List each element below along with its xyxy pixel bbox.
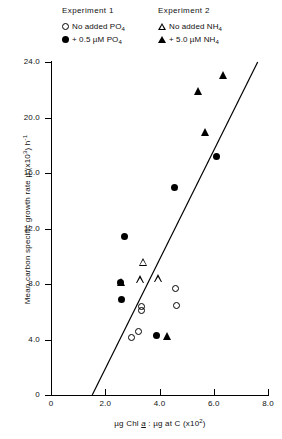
y-tick [45,340,51,341]
y-tick [45,62,51,63]
regression-line [0,0,282,439]
data-point-filled-circle [121,233,128,240]
x-tick-label: 6.0 [199,399,229,408]
data-point-open-circle [138,307,145,314]
x-axis-title: µg Chl a : µg at C (x102) [51,419,269,428]
data-point-open-circle [172,285,179,292]
y-tick [45,229,51,230]
x-tick [214,389,215,395]
x-tick [268,389,269,395]
data-point-open-circle [173,302,180,309]
y-tick-label: 0 [4,390,40,399]
data-point-open-triangle [139,258,147,266]
x-tick-label: 8.0 [253,399,282,408]
x-axis-line [51,395,269,396]
figure-scatter-growth-rate: Experiment 1 No added PO4 + 0.5 µM PO4 E… [0,0,282,439]
y-tick [45,118,51,119]
data-point-filled-circle [118,296,125,303]
data-point-filled-circle [213,153,220,160]
data-point-filled-circle [153,332,160,339]
y-tick [45,395,51,396]
y-tick-label: 24.0 [4,57,40,66]
data-point-filled-triangle [163,332,171,340]
data-point-filled-triangle [117,278,125,286]
y-axis-title: Mean carbon specific growth rate µ (x103… [23,95,32,345]
x-tick-label: 2.0 [90,399,120,408]
data-point-open-triangle [154,274,162,282]
data-point-open-circle [128,334,135,341]
x-tick [160,389,161,395]
data-point-filled-triangle [201,128,209,136]
y-tick [45,173,51,174]
x-tick-label: 4.0 [145,399,175,408]
x-tick [105,389,106,395]
y-axis-line [51,61,52,396]
data-point-open-triangle [136,275,144,283]
y-tick [45,284,51,285]
data-point-open-circle [135,328,142,335]
data-point-filled-triangle [219,71,227,79]
data-point-filled-circle [171,184,178,191]
x-tick-label: 0 [36,399,66,408]
plot-area: 04.08.012.016.020.024.0 02.04.06.08.0 Me… [0,0,282,439]
data-point-filled-triangle [194,87,202,95]
